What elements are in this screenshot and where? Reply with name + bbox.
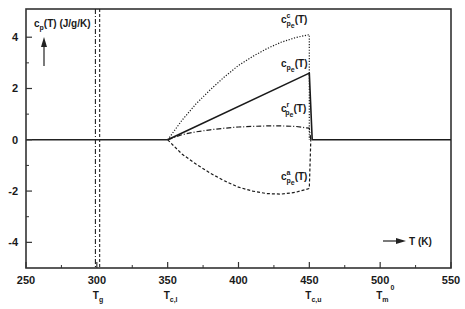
temperature-marker-label: Tg	[93, 290, 103, 304]
x-tick-label: 400	[229, 274, 247, 286]
y-tick-label: 4	[12, 31, 19, 43]
series-layer	[95, 9, 451, 268]
series-label: ccpe(T)	[281, 12, 307, 29]
y-tick-label: -4	[8, 236, 19, 248]
axes	[26, 9, 451, 268]
series-line	[168, 35, 310, 140]
x-tick-label: 300	[88, 274, 106, 286]
x-tick-label: 500	[371, 274, 389, 286]
y-tick-label: 0	[12, 134, 18, 146]
x-tick-label: 250	[17, 274, 35, 286]
labels-layer: 250300350400450500550-4-2024ccpe(T)cpe(T…	[8, 12, 460, 304]
x-axis-label: T (K)	[409, 236, 432, 247]
series-label: cpe(T)	[281, 58, 308, 73]
x-tick-label: 450	[300, 274, 318, 286]
y-axis-label: cp(T) (J/g/K)	[34, 18, 91, 32]
temperature-marker-label: Tm0	[376, 284, 394, 303]
temperature-marker-label: Tc,l	[164, 290, 178, 304]
x-axis-arrow-head	[396, 238, 406, 244]
temperature-marker-label: Tc,u	[305, 290, 321, 304]
plot-frame	[26, 9, 451, 268]
series-label: cape(T)	[281, 169, 307, 186]
series-label: crpe(T)	[281, 101, 306, 118]
y-tick-label: 2	[12, 82, 18, 94]
y-axis-arrow-head	[41, 37, 47, 47]
series-line	[168, 126, 311, 140]
y-tick-label: -2	[8, 185, 18, 197]
x-tick-label: 350	[158, 274, 176, 286]
chart: 250300350400450500550-4-2024ccpe(T)cpe(T…	[0, 0, 465, 309]
series-line	[168, 140, 311, 194]
x-tick-label: 550	[442, 274, 460, 286]
